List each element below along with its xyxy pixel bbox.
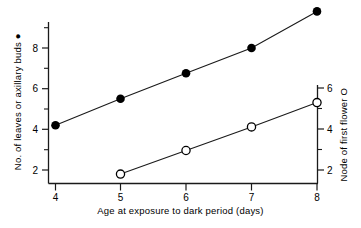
left-axis-tick-labels: 2 4 6 8 xyxy=(32,43,38,176)
left-tick-label: 8 xyxy=(32,43,38,54)
chart-figure: 2 4 6 8 2 4 6 xyxy=(0,0,361,228)
series-leaves-line xyxy=(56,11,318,125)
x-axis-ticks xyxy=(56,184,318,191)
x-tick-label: 6 xyxy=(183,192,189,203)
x-axis-tick-labels: 4 5 6 7 8 xyxy=(53,192,321,203)
left-axis-title-text: No. of leaves or axillary buds xyxy=(12,42,23,170)
chart-plot-area: 2 4 6 8 2 4 6 xyxy=(0,0,361,228)
x-tick-label: 8 xyxy=(314,192,320,203)
right-axis-title-text: Node of first flower xyxy=(338,98,349,181)
series-node-line xyxy=(121,103,318,175)
right-tick-label: 6 xyxy=(327,83,333,94)
left-tick-label: 6 xyxy=(32,83,38,94)
right-axis-title: Node of first flower O xyxy=(339,60,349,210)
left-tick-label: 2 xyxy=(32,165,38,176)
left-tick-label: 4 xyxy=(32,124,38,135)
right-axis-tick-labels: 2 4 6 xyxy=(327,83,333,176)
open-circle-legend-icon: O xyxy=(338,88,349,96)
x-axis-title: Age at exposure to dark period (days) xyxy=(0,205,361,216)
series-leaves-markers xyxy=(51,7,321,129)
filled-circle-legend-icon: ● xyxy=(12,33,23,39)
left-axis-title: No. of leaves or axillary buds ● xyxy=(13,22,23,182)
x-tick-label: 7 xyxy=(249,192,255,203)
right-tick-label: 4 xyxy=(327,124,333,135)
right-tick-label: 2 xyxy=(327,165,333,176)
x-tick-label: 4 xyxy=(53,192,59,203)
x-tick-label: 5 xyxy=(118,192,124,203)
